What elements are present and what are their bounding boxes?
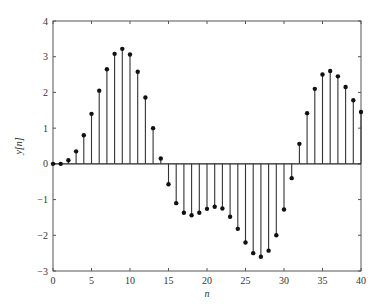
y-tick-label: 1 — [43, 123, 48, 134]
x-tick-label: 0 — [51, 275, 56, 286]
stem-marker — [328, 69, 332, 73]
stem-marker — [151, 126, 155, 130]
stem-marker — [159, 156, 163, 160]
stem-marker — [236, 227, 240, 231]
stem-marker — [197, 211, 201, 215]
stem-marker — [228, 215, 232, 219]
stem-marker — [320, 72, 324, 76]
stem-marker — [66, 158, 70, 162]
stem-marker — [290, 176, 294, 180]
stem-marker — [166, 182, 170, 186]
stem-marker — [313, 87, 317, 91]
stem-marker — [112, 52, 116, 56]
y-tick-label: −1 — [37, 194, 48, 205]
x-tick-label: 35 — [318, 275, 328, 286]
y-tick-label: 0 — [43, 158, 48, 169]
stem-series — [51, 47, 363, 259]
stem-marker — [189, 213, 193, 217]
stem-marker — [243, 240, 247, 244]
y-tick-label: 2 — [43, 87, 48, 98]
stem-marker — [82, 133, 86, 137]
axis-ticks: 0510152025303540−3−2−101234 — [37, 16, 366, 287]
stem-marker — [205, 207, 209, 211]
x-tick-label: 10 — [125, 275, 135, 286]
x-tick-label: 25 — [241, 275, 251, 286]
stem-marker — [182, 211, 186, 215]
stem-marker — [105, 67, 109, 71]
stem-marker — [251, 251, 255, 255]
stem-marker — [305, 111, 309, 115]
stem-marker — [143, 95, 147, 99]
stem-marker — [259, 255, 263, 259]
stem-marker — [136, 70, 140, 74]
stem-marker — [266, 248, 270, 252]
stem-marker — [74, 149, 78, 153]
stem-marker — [174, 201, 178, 205]
stem-marker — [213, 205, 217, 209]
x-tick-label: 5 — [89, 275, 94, 286]
y-tick-label: 4 — [43, 16, 48, 27]
stem-marker — [220, 206, 224, 210]
stem-marker — [343, 85, 347, 89]
stem-marker — [51, 162, 55, 166]
x-tick-label: 40 — [356, 275, 366, 286]
x-tick-label: 20 — [202, 275, 212, 286]
stem-marker — [359, 110, 363, 114]
stem-marker — [120, 47, 124, 51]
x-axis-label: n — [205, 288, 210, 299]
stem-marker — [89, 112, 93, 116]
stem-marker — [351, 98, 355, 102]
stem-plot: 0510152025303540−3−2−101234 n y[n] — [0, 0, 384, 307]
x-tick-label: 15 — [164, 275, 174, 286]
stem-marker — [128, 52, 132, 56]
y-axis-label: y[n] — [13, 137, 24, 155]
stem-marker — [336, 74, 340, 78]
y-tick-label: −2 — [37, 230, 48, 241]
y-tick-label: 3 — [43, 51, 48, 62]
stem-marker — [274, 233, 278, 237]
stem-marker — [282, 207, 286, 211]
y-tick-label: −3 — [37, 266, 48, 277]
stem-marker — [97, 88, 101, 92]
stem-marker — [59, 162, 63, 166]
x-tick-label: 30 — [279, 275, 289, 286]
stem-marker — [297, 142, 301, 146]
